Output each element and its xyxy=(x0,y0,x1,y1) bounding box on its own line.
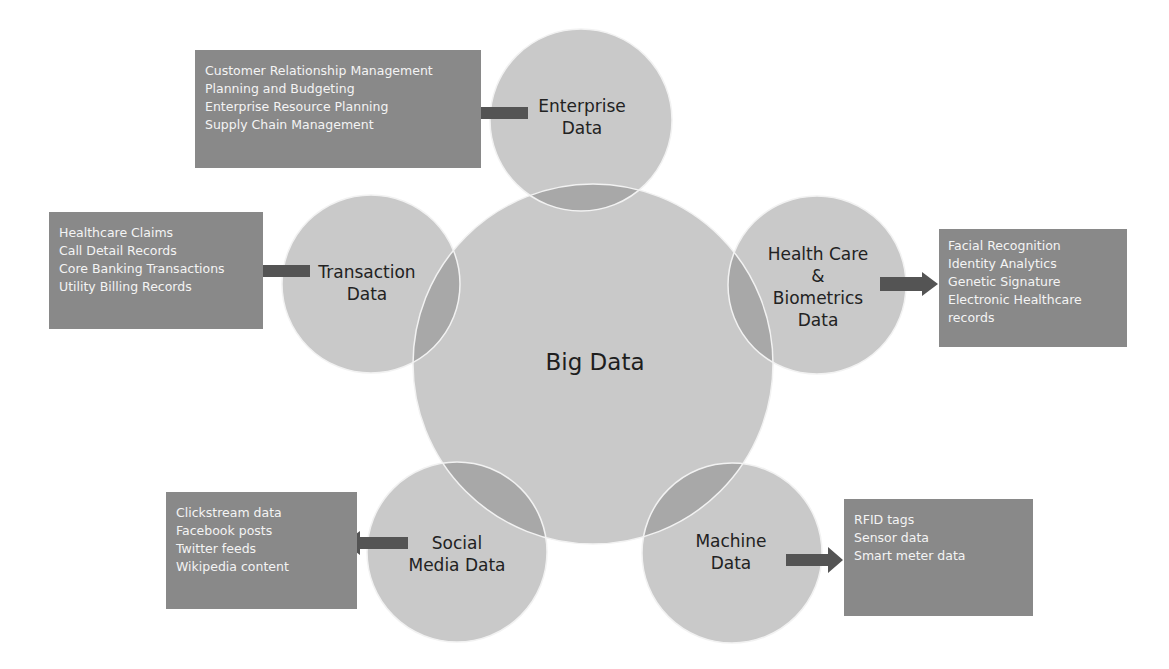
list-item: Identity Analytics xyxy=(948,255,1117,273)
big-data-label: Big Data xyxy=(546,348,645,376)
enterprise-label-line: Data xyxy=(538,117,625,139)
list-item: records xyxy=(948,309,1117,327)
transaction-label-line: Transaction xyxy=(318,261,415,283)
health-label-line: & xyxy=(768,265,869,287)
machine-label-line: Machine xyxy=(695,530,766,552)
enterprise-label: Enterprise Data xyxy=(538,95,625,139)
machine-label-line: Data xyxy=(695,552,766,574)
social-label-line: Media Data xyxy=(408,554,505,576)
list-item: Utility Billing Records xyxy=(59,278,253,296)
list-item: Twitter feeds xyxy=(176,540,347,558)
list-item: Wikipedia content xyxy=(176,558,347,576)
list-item: Clickstream data xyxy=(176,504,347,522)
list-item: Planning and Budgeting xyxy=(205,80,471,98)
enterprise-label-line: Enterprise xyxy=(538,95,625,117)
social-label: Social Media Data xyxy=(408,532,505,576)
health-label: Health Care & Biometrics Data xyxy=(768,243,869,331)
list-item: Smart meter data xyxy=(854,547,1023,565)
list-item: Call Detail Records xyxy=(59,242,253,260)
list-item: Core Banking Transactions xyxy=(59,260,253,278)
health-label-line: Health Care xyxy=(768,243,869,265)
machine-label: Machine Data xyxy=(695,530,766,574)
list-item: Genetic Signature xyxy=(948,273,1117,291)
enterprise-items-box: Customer Relationship Management Plannin… xyxy=(195,50,481,168)
list-item: Enterprise Resource Planning xyxy=(205,98,471,116)
list-item: Electronic Healthcare xyxy=(948,291,1117,309)
list-item: Healthcare Claims xyxy=(59,224,253,242)
transaction-label: Transaction Data xyxy=(318,261,415,305)
list-item: Supply Chain Management xyxy=(205,116,471,134)
list-item: Facebook posts xyxy=(176,522,347,540)
machine-items-box: RFID tags Sensor data Smart meter data xyxy=(844,499,1033,616)
list-item: Customer Relationship Management xyxy=(205,62,471,80)
list-item: Facial Recognition xyxy=(948,237,1117,255)
transaction-items-box: Healthcare Claims Call Detail Records Co… xyxy=(49,212,263,329)
transaction-label-line: Data xyxy=(318,283,415,305)
list-item: RFID tags xyxy=(854,511,1023,529)
health-label-line: Data xyxy=(768,309,869,331)
health-items-box: Facial Recognition Identity Analytics Ge… xyxy=(939,229,1127,347)
social-label-line: Social xyxy=(408,532,505,554)
health-label-line: Biometrics xyxy=(768,287,869,309)
big-data-diagram: Big Data Enterprise Data Transaction Dat… xyxy=(0,0,1169,669)
social-items-box: Clickstream data Facebook posts Twitter … xyxy=(166,492,357,609)
list-item: Sensor data xyxy=(854,529,1023,547)
